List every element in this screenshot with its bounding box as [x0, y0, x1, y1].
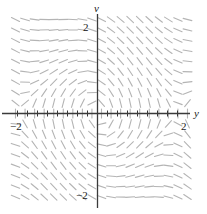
field-segment — [129, 99, 131, 108]
field-segment — [184, 195, 192, 200]
direction-field-figure: v y −2 2 2 −2 — [0, 0, 207, 214]
field-segment — [174, 185, 182, 189]
field-segment — [183, 29, 192, 31]
field-segment — [60, 183, 66, 190]
field-segment — [107, 196, 116, 198]
field-segment — [22, 100, 29, 106]
field-segment — [42, 89, 47, 96]
field-segment — [184, 163, 191, 169]
field-segment — [88, 184, 96, 189]
field-segment — [97, 123, 106, 125]
field-segment — [23, 120, 27, 128]
field-segment — [136, 16, 143, 22]
field-segment — [127, 27, 133, 33]
field-segment — [53, 99, 55, 108]
field-segment — [98, 17, 106, 21]
field-segment — [107, 27, 114, 32]
field-segment — [98, 49, 106, 53]
field-segment — [174, 91, 182, 94]
field-segment — [126, 186, 135, 187]
field-segment — [88, 142, 95, 147]
field-segment — [156, 78, 161, 85]
field-segment — [51, 173, 57, 180]
field-segment — [165, 69, 172, 75]
field-segment — [79, 90, 86, 96]
field-segment — [118, 131, 124, 138]
field-segment — [21, 29, 30, 32]
field-segment — [99, 100, 105, 107]
field-segment — [185, 100, 191, 107]
field-segment — [30, 29, 39, 30]
field-segment — [98, 28, 106, 32]
field-segment — [62, 120, 64, 129]
field-segment — [40, 50, 49, 52]
field-segment — [165, 121, 171, 128]
field-segment — [98, 59, 106, 64]
field-segment — [116, 154, 124, 157]
field-segment — [21, 60, 30, 62]
field-segment — [89, 131, 96, 137]
field-segment — [41, 173, 47, 180]
field-segment — [21, 195, 29, 200]
field-segment — [33, 120, 36, 129]
field-segment — [183, 39, 192, 41]
field-segment — [68, 40, 77, 41]
field-segment — [117, 142, 124, 147]
vertical-axis-label: v — [94, 3, 99, 14]
field-segment — [165, 28, 173, 33]
field-segment — [119, 120, 122, 129]
field-segment — [165, 38, 172, 43]
field-segment — [22, 131, 28, 138]
field-segment — [88, 39, 97, 42]
field-segment — [32, 141, 37, 148]
field-segment — [174, 18, 182, 22]
field-segment — [138, 88, 141, 96]
field-segment — [49, 30, 58, 31]
field-segment — [164, 186, 173, 188]
field-segment — [41, 162, 47, 169]
field-segment — [80, 141, 86, 148]
field-segment — [60, 79, 66, 85]
field-segment — [53, 120, 55, 129]
field-segment — [70, 162, 76, 169]
field-segment — [109, 99, 112, 107]
field-segment — [51, 79, 57, 85]
field-segment — [155, 143, 163, 147]
field-segment — [135, 186, 144, 188]
field-segment — [12, 80, 20, 84]
field-segment — [147, 131, 152, 139]
field-segment — [11, 143, 20, 146]
field-segment — [108, 79, 114, 86]
field-segment — [174, 59, 182, 63]
field-segment — [30, 61, 39, 62]
field-segment — [21, 184, 29, 189]
field-segment — [88, 60, 97, 62]
field-segment — [30, 40, 39, 41]
field-segment — [184, 152, 191, 158]
field-segment — [71, 141, 76, 149]
field-segment — [31, 163, 37, 169]
field-segment — [127, 37, 133, 44]
field-segment — [157, 120, 160, 128]
field-segment — [98, 90, 105, 96]
field-segment — [148, 99, 150, 108]
field-segment — [128, 78, 132, 86]
field-segment — [164, 133, 173, 136]
field-segment — [109, 89, 114, 97]
field-segment — [42, 152, 47, 159]
field-segment — [61, 152, 66, 160]
field-segment — [59, 60, 67, 63]
field-segment — [21, 163, 28, 168]
field-segment — [32, 152, 38, 159]
field-segment — [154, 165, 163, 166]
field-segment — [107, 38, 114, 43]
field-segment — [116, 176, 125, 177]
field-segment — [174, 80, 182, 84]
field-segment — [11, 38, 19, 42]
field-segment — [138, 78, 142, 86]
field-segment — [11, 185, 19, 188]
field-segment — [183, 61, 192, 62]
field-segment — [11, 49, 19, 53]
field-segment — [51, 183, 57, 190]
field-segment — [11, 175, 19, 178]
